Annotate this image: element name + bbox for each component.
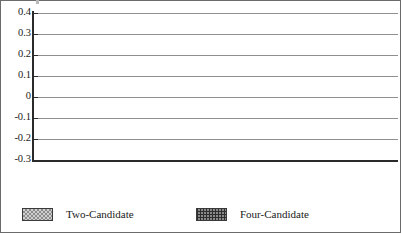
y-tick-label-2: 0.2 xyxy=(1,49,31,59)
y-tick-label-7: -0.3 xyxy=(1,154,31,164)
y-tick-label-5: -0.1 xyxy=(1,112,31,122)
legend-swatch-two-candidate-icon xyxy=(22,208,53,221)
gridline-neg0p2 xyxy=(33,139,398,140)
y-tick-label-0: 0.4 xyxy=(1,7,31,17)
gridline-0p1 xyxy=(33,76,398,77)
gridline-0 xyxy=(33,97,398,98)
gridline-0p3 xyxy=(33,34,398,35)
x-axis-line xyxy=(32,160,398,162)
legend-label-four-candidate: Four-Candidate xyxy=(240,207,309,221)
gridline-neg0p1 xyxy=(33,118,398,119)
legend-label-two-candidate: Two-Candidate xyxy=(66,207,134,221)
gridline-0p2 xyxy=(33,55,398,56)
y-tick-label-4: 0 xyxy=(1,91,31,101)
y-tick-label-1: 0.3 xyxy=(1,28,31,38)
legend-item-two-candidate: Two-Candidate xyxy=(22,206,182,226)
y-tick-label-6: -0.2 xyxy=(1,133,31,143)
y-tick-label-3: 0.1 xyxy=(1,70,31,80)
legend-swatch-four-candidate-icon xyxy=(196,208,227,221)
bar-chart-figure: 0.40.30.20.10-0.1-0.2-0.3 Two-Candidate … xyxy=(0,0,402,234)
y-axis-tick-labels: 0.40.30.20.10-0.1-0.2-0.3 xyxy=(0,0,31,234)
chart-legend: Two-Candidate Four-Candidate xyxy=(0,206,402,230)
gridline-0p4 xyxy=(33,13,398,14)
legend-item-four-candidate: Four-Candidate xyxy=(196,206,366,226)
scan-artifact xyxy=(36,0,39,4)
y-axis-line xyxy=(32,11,34,162)
